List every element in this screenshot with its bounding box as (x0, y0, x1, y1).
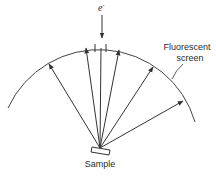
screen-leader-line (172, 64, 183, 79)
diffracted-beam-arrow (49, 64, 100, 148)
incident-beam-label: e- (98, 2, 104, 13)
screen-label-line1: Fluorescent (163, 42, 211, 52)
diffracted-beam-arrow (86, 48, 100, 148)
sample-label: Sample (85, 159, 116, 169)
diffraction-diagram: e- Sample Fluorescent screen (0, 0, 216, 176)
sample-block (91, 147, 110, 155)
diffracted-beam-arrow (100, 101, 183, 148)
transmitted-beam-line (100, 48, 101, 148)
screen-label-line2: screen (176, 53, 203, 63)
fluorescent-screen-arc (8, 50, 195, 122)
